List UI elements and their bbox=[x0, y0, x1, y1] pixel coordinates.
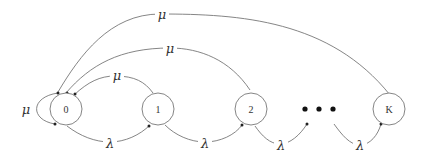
arrival-rate-label: λ bbox=[200, 136, 209, 151]
service-rate-label: μ bbox=[158, 7, 166, 22]
state-label: K bbox=[385, 104, 393, 115]
arrival-rate-label: λ bbox=[355, 138, 364, 153]
state-diagram: 0 1 2 K μ μ μ μ λ λ λ λ bbox=[0, 0, 426, 162]
state-node-0: 0 bbox=[50, 93, 82, 125]
edge-service-K-to-0 bbox=[58, 14, 390, 95]
arrowhead-icon bbox=[148, 125, 151, 128]
service-rate-label: μ bbox=[166, 41, 174, 56]
state-label: 0 bbox=[64, 104, 69, 115]
arrowhead-icon bbox=[54, 123, 57, 126]
arrival-rate-label: λ bbox=[276, 138, 285, 153]
state-label: 2 bbox=[249, 104, 254, 115]
arrival-rate-label: λ bbox=[105, 136, 114, 151]
state-node-K: K bbox=[373, 93, 405, 125]
service-rate-label: μ bbox=[22, 102, 30, 117]
state-node-1: 1 bbox=[142, 93, 174, 125]
arrowhead-icon bbox=[306, 123, 309, 126]
arrowhead-icon bbox=[57, 92, 60, 95]
state-label: 1 bbox=[156, 104, 161, 115]
arrowhead-icon bbox=[241, 124, 244, 127]
edge-service-2-to-0 bbox=[66, 48, 250, 93]
state-node-2: 2 bbox=[235, 93, 267, 125]
ellipsis bbox=[302, 106, 335, 111]
service-rate-label: μ bbox=[113, 68, 121, 83]
